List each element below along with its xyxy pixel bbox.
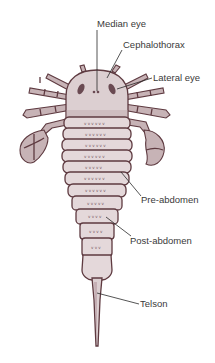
label-median-eye: Median eye <box>97 18 146 29</box>
svg-text:v v v v v v: v v v v v v <box>84 176 105 181</box>
svg-text:v v v v v v: v v v v v v <box>85 132 106 137</box>
median-eye-dot <box>93 91 96 94</box>
label-pre-abdomen: Pre-abdomen <box>141 194 199 205</box>
svg-text:v v v v v v: v v v v v v <box>85 143 106 148</box>
svg-text:v v v v v: v v v v v <box>87 201 105 206</box>
label-lateral-eye: Lateral eye <box>153 72 200 83</box>
svg-text:v v v v: v v v v <box>89 229 103 234</box>
eurypterid-diagram: v v v v v v v v v v v v v v v v v v v v … <box>0 0 215 363</box>
post-abdomen-segments: v v v v v v v v v v v v v v v v <box>72 196 122 280</box>
label-cephalothorax: Cephalothorax <box>123 39 185 50</box>
pre-abdomen-segments: v v v v v v v v v v v v v v v v v v v v … <box>62 117 132 197</box>
svg-text:v v v v v v: v v v v v v <box>84 121 105 126</box>
svg-text:v v v v: v v v v <box>88 214 102 219</box>
label-post-abdomen: Post-abdomen <box>130 235 192 246</box>
telson <box>92 278 102 346</box>
svg-text:v v v v v v: v v v v v v <box>85 188 106 193</box>
svg-text:v v v v v: v v v v v <box>85 165 103 170</box>
svg-text:v v v v v v: v v v v v v <box>84 154 105 159</box>
label-telson: Telson <box>140 298 167 309</box>
svg-text:v v v: v v v <box>91 245 101 250</box>
